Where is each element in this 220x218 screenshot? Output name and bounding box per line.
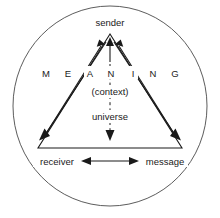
meaning-letter-5: I <box>132 68 135 79</box>
center-arrow-down-head <box>106 130 115 141</box>
meaning-letter-7: G <box>171 68 178 79</box>
diagram-canvas: sender receiver message (context) univer… <box>0 0 220 218</box>
node-label-receiver: receiver <box>40 156 74 167</box>
universe-circle <box>13 6 207 206</box>
meaning-letter-6: N <box>150 68 157 79</box>
center-label-context: (context) <box>92 86 129 97</box>
bottom-arrow-left-head <box>81 157 91 165</box>
meaning-letter-4: N <box>108 68 115 79</box>
meaning-letter-1: M <box>42 68 50 79</box>
center-label-universe: universe <box>92 111 128 122</box>
node-label-message: message <box>146 156 185 167</box>
semiotic-triangle-diagram: sender receiver message (context) univer… <box>0 0 220 218</box>
node-label-sender: sender <box>95 17 124 28</box>
bottom-arrow-right-head <box>129 157 139 165</box>
meaning-letter-3: A <box>87 68 94 79</box>
meaning-letter-2: E <box>65 68 71 79</box>
